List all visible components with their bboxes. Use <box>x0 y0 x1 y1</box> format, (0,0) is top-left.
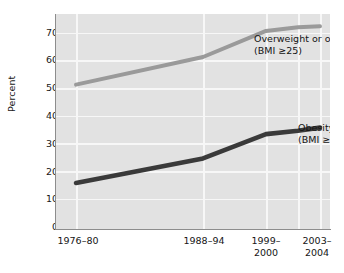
y-tick-label-60: 60 <box>18 55 58 65</box>
x-tick-label-1988-94: 1988–94 <box>175 235 233 247</box>
x-tick-label-1976-80: 1976–80 <box>48 235 108 247</box>
y-tick-label-0: 0 <box>18 222 58 232</box>
x-tick-label-2003-2004: 2003– 2004 <box>294 235 340 258</box>
x-tick-1999-2000-line2: 2000 <box>244 247 288 259</box>
x-tick-2003-2004-line2: 2004 <box>294 247 340 259</box>
annotation-obesity-line2: (BMI ≥30) <box>298 134 330 146</box>
x-axis-line <box>55 229 331 230</box>
annotation-obesity-line1: Obesity <box>298 122 330 134</box>
annotation-overweight-line2: (BMI ≥25) <box>254 45 330 57</box>
annotation-overweight-or-obese: Overweight or obese (BMI ≥25) <box>254 33 330 56</box>
x-tick-2003-2004-line1: 2003– <box>294 235 340 247</box>
y-tick-label-40: 40 <box>18 111 58 121</box>
y-tick-label-20: 20 <box>18 167 58 177</box>
x-tick-1988-94-line1: 1988–94 <box>175 235 233 247</box>
line-obesity <box>76 128 320 183</box>
y-tick-label-50: 50 <box>18 83 58 93</box>
x-tick-label-1999-2000: 1999– 2000 <box>244 235 288 258</box>
y-tick-label-70: 70 <box>18 28 58 38</box>
chart-figure: Percent 70 60 50 40 30 20 10 0 Overweigh… <box>0 0 344 273</box>
x-tick-1976-80-line1: 1976–80 <box>48 235 108 247</box>
y-axis-title: Percent <box>6 32 17 112</box>
x-tick-1999-2000-line1: 1999– <box>244 235 288 247</box>
plot-area: Overweight or obese (BMI ≥25) Obesity (B… <box>56 14 330 229</box>
y-tick-label-30: 30 <box>18 139 58 149</box>
annotation-obesity: Obesity (BMI ≥30) <box>298 122 330 145</box>
annotation-overweight-line1: Overweight or obese <box>254 33 330 45</box>
y-tick-label-10: 10 <box>18 194 58 204</box>
